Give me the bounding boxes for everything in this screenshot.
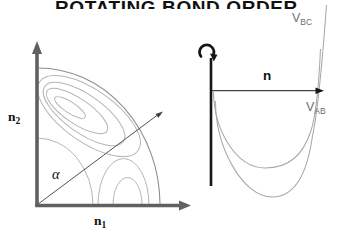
contour-inner-arc — [37, 138, 93, 205]
v-bc-label-sub: BC — [300, 17, 312, 27]
contour-dome-2 — [113, 177, 142, 205]
diagram-canvas — [0, 0, 353, 241]
n-coordinate-label: n — [263, 68, 271, 83]
alpha-arrow — [38, 112, 164, 205]
contour-ellipse-4 — [52, 93, 88, 122]
curve-v-ab — [214, 49, 321, 168]
x-axis-arrowhead-icon — [179, 201, 191, 211]
y-axis-arrowhead-icon — [32, 41, 42, 54]
figure: ROTATING BOND ORDER — [0, 0, 353, 241]
y-axis-label-base: n — [8, 109, 16, 124]
x-axis-label-base: n — [94, 213, 102, 228]
x-axis-label: n1 — [94, 213, 106, 230]
alpha-arrowhead-icon — [156, 112, 163, 118]
y-axis-label-sub: 2 — [16, 116, 21, 126]
alpha-arrow-line — [38, 114, 160, 205]
y-axis-label: n2 — [8, 109, 20, 126]
n-axis-arrow — [212, 87, 324, 94]
rotation-arrow-icon — [200, 45, 218, 62]
x-axis-label-sub: 1 — [102, 220, 107, 230]
v-ab-label: VAB — [306, 100, 326, 116]
contour-ellipse-1 — [25, 60, 153, 171]
contour-lines — [25, 60, 160, 205]
v-ab-label-sub: AB — [314, 106, 325, 116]
y-axis — [32, 41, 42, 206]
contour-plot — [25, 41, 191, 211]
v-bc-label: VBC — [292, 11, 312, 27]
angle-label: α — [52, 166, 60, 183]
